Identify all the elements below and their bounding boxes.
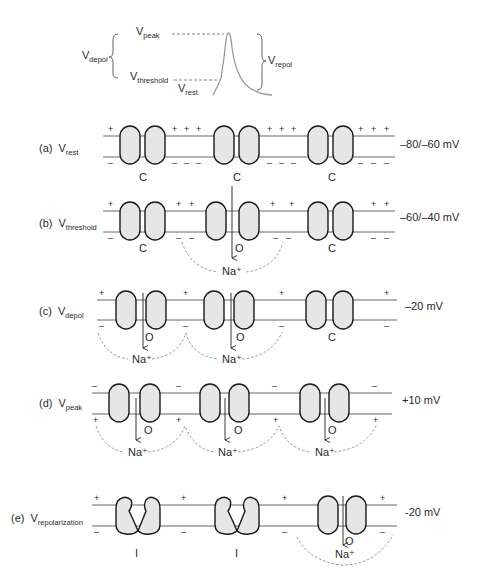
svg-text:Na⁺: Na⁺: [218, 446, 238, 458]
svg-text:+: +: [108, 199, 113, 209]
row-b-threshold: (b) Vthreshold C O C Na⁺ + – ++ –– ++ ––…: [39, 186, 460, 277]
svg-text:–: –: [189, 233, 194, 243]
svg-text:–: –: [286, 233, 291, 243]
sodium-ion-label: Na⁺: [222, 265, 242, 277]
svg-text:–: –: [272, 381, 277, 391]
voltage-label: –60/–40 mV: [400, 211, 460, 223]
row-e-repolarization: (e) Vrepolarization I I O Na⁺ + – + – + …: [11, 493, 441, 565]
svg-text:–: –: [282, 527, 287, 537]
svg-text:Na⁺: Na⁺: [128, 446, 148, 458]
v-depol-label: Vdepol: [82, 49, 108, 64]
svg-text:+: +: [371, 199, 376, 209]
channel-open: [200, 384, 249, 422]
row-c-depol: (c) Vdepol O O C Na⁺ Na⁺ + – + – + – + –…: [39, 288, 444, 365]
row-a-rest: (a) Vrest C C C + – +++ ––– +++ ––– +++ …: [39, 124, 460, 183]
svg-text:–: –: [384, 233, 389, 243]
row-e-label: (e) Vrepolarization: [11, 512, 83, 527]
svg-text:–: –: [371, 233, 376, 243]
channel-inactivated: [215, 497, 259, 534]
svg-text:–: –: [184, 158, 189, 168]
svg-text:–: –: [267, 158, 272, 168]
voltage-label: –80/–60 mV: [400, 138, 460, 150]
svg-text:C: C: [139, 242, 147, 254]
svg-text:+: +: [384, 124, 389, 134]
svg-text:–: –: [371, 158, 376, 168]
svg-text:O: O: [234, 424, 243, 436]
svg-text:–: –: [279, 158, 284, 168]
svg-text:Na⁺: Na⁺: [132, 353, 152, 365]
channel-closed: [214, 126, 259, 164]
svg-text:+: +: [184, 124, 189, 134]
svg-text:+: +: [189, 199, 194, 209]
row-c-label: (c) Vdepol: [39, 305, 84, 320]
svg-text:–: –: [291, 158, 296, 168]
state-label: C: [328, 171, 336, 183]
svg-text:+: +: [373, 415, 378, 425]
svg-text:+: +: [384, 199, 389, 209]
svg-text:C: C: [328, 331, 336, 343]
svg-text:+: +: [176, 415, 181, 425]
svg-text:+: +: [279, 288, 284, 298]
svg-text:Na⁺: Na⁺: [222, 353, 242, 365]
voltage-label: +10 mV: [402, 394, 441, 406]
svg-text:O: O: [328, 424, 337, 436]
sodium-channel-diagram: Vpeak Vdepol Vthreshold Vrest Vrepol: [0, 0, 478, 585]
channel-closed: [120, 126, 165, 164]
svg-text:–: –: [108, 233, 113, 243]
svg-text:+: +: [380, 493, 385, 503]
svg-text:+: +: [183, 288, 188, 298]
svg-text:I: I: [235, 547, 238, 559]
svg-text:+: +: [273, 415, 278, 425]
v-repol-label: Vrepol: [268, 54, 292, 69]
svg-text:+: +: [279, 124, 284, 134]
svg-text:+: +: [93, 415, 98, 425]
svg-text:–: –: [279, 321, 284, 331]
svg-text:–: –: [384, 321, 389, 331]
svg-text:Na⁺: Na⁺: [335, 548, 355, 560]
voltage-label: -20 mV: [405, 506, 441, 518]
svg-text:–: –: [92, 381, 97, 391]
channel-closed: [308, 126, 353, 164]
row-d-label: (d) Vpeak: [39, 397, 82, 412]
svg-text:–: –: [380, 527, 385, 537]
svg-text:+: +: [108, 124, 113, 134]
svg-text:+: +: [172, 124, 177, 134]
svg-text:O: O: [235, 242, 244, 254]
state-label: C: [139, 171, 147, 183]
v-peak-label: Vpeak: [136, 25, 160, 40]
svg-text:O: O: [145, 331, 154, 343]
action-potential-trace: [213, 33, 272, 95]
channel-inactivated: [116, 497, 160, 534]
v-threshold-label: Vthreshold: [130, 70, 168, 85]
channel-open: [206, 202, 259, 240]
channel-closed: [306, 291, 353, 329]
row-b-label: (b) Vthreshold: [39, 217, 97, 232]
channel-open: [300, 384, 349, 422]
svg-text:–: –: [384, 158, 389, 168]
svg-text:C: C: [328, 242, 336, 254]
svg-text:+: +: [291, 124, 296, 134]
svg-text:+: +: [94, 493, 99, 503]
svg-text:–: –: [172, 158, 177, 168]
depol-brace: [109, 34, 118, 78]
row-d-peak: (d) Vpeak O O O Na⁺ Na⁺ Na⁺ – + – + – + …: [39, 381, 441, 458]
svg-text:–: –: [181, 527, 186, 537]
svg-text:+: +: [99, 288, 104, 298]
svg-text:–: –: [94, 527, 99, 537]
svg-text:–: –: [99, 321, 104, 331]
svg-text:I: I: [135, 547, 138, 559]
svg-text:+: +: [181, 493, 186, 503]
svg-text:–: –: [183, 321, 188, 331]
channel-closed: [308, 202, 353, 240]
svg-text:+: +: [371, 124, 376, 134]
svg-text:+: +: [289, 199, 294, 209]
svg-text:+: +: [176, 199, 181, 209]
svg-text:–: –: [372, 381, 377, 391]
svg-text:–: –: [358, 158, 363, 168]
svg-text:–: –: [176, 233, 181, 243]
svg-text:O: O: [144, 424, 153, 436]
channel-open: [109, 384, 160, 422]
channel-open: [116, 291, 166, 329]
voltage-label: –20 mV: [405, 300, 444, 312]
v-rest-label: Vrest: [178, 82, 199, 97]
